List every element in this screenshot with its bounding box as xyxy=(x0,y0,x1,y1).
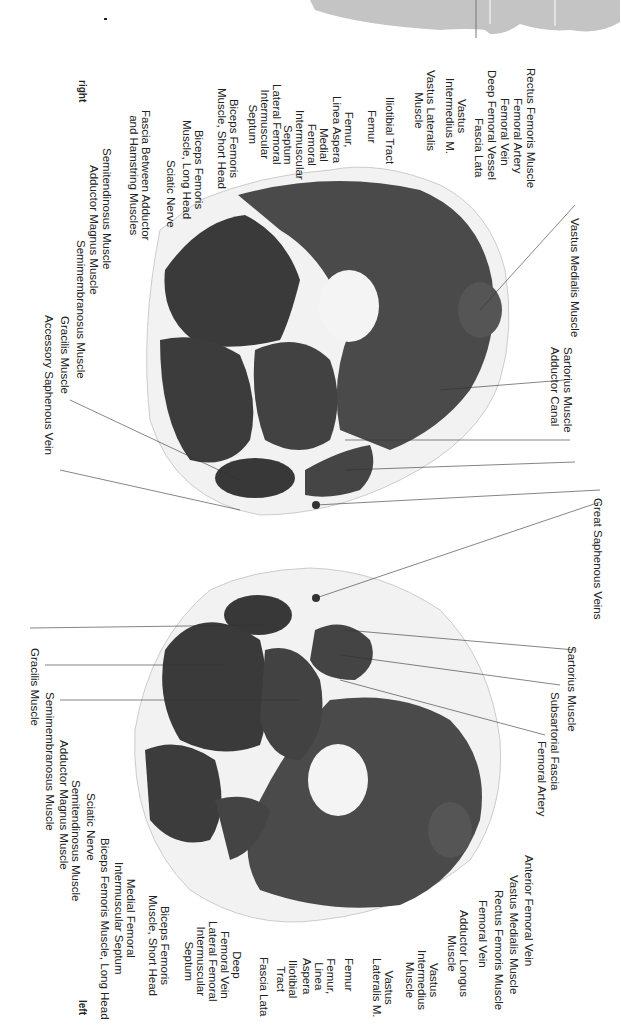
right-thigh-structure-label: Deep Femoral Vessel xyxy=(486,70,498,180)
right-thigh-structure-label: Semimembranosus Muscle xyxy=(75,240,87,379)
left-thigh-structure-label: Rectus Femoris Muscle xyxy=(493,890,505,1010)
thigh-cross-section-diagram: right left Vastus Medialis MuscleSartori… xyxy=(0,0,621,1030)
left-thigh-structure-label: Lateral Femoral Intermuscular Septum xyxy=(183,921,219,1002)
left-thigh-structure-label: Femur, Linea Aspera xyxy=(301,958,337,994)
right-thigh-structure-label: Adductor Magnus Muscle xyxy=(88,165,100,295)
left-thigh-structure-label: Medial Femoral Intermuscular Septum xyxy=(113,862,137,975)
right-thigh-structure-label: Sartorius Muscle xyxy=(562,347,574,433)
left-thigh-structure-label: Sartorius Muscle xyxy=(566,646,578,732)
left-thigh-structure-label: Biceps Femoris Muscle, Long Head xyxy=(99,838,111,1020)
left-thigh-structure-label: Adductor Magnus Muscle xyxy=(58,740,70,870)
left-thigh-structure-label: Semitendinosus Muscle xyxy=(70,780,82,901)
left-thigh-structure-label: Vastus Intermedius Muscle xyxy=(404,950,440,1010)
left-thigh-structure-label: Vastus Lateralis M. xyxy=(371,958,395,1017)
left-thigh-structure-label: Adductor Longus Muscle xyxy=(446,910,470,997)
right-thigh-structure-label: Semitendinosus Muscle xyxy=(101,148,113,269)
orientation-label-right: right xyxy=(76,80,88,102)
right-thigh-structure-label: Femur xyxy=(366,110,378,143)
right-thigh-structure-label: Femoral Vein xyxy=(499,98,511,166)
right-thigh-structure-label: Rectus Femoris Muscle xyxy=(525,68,537,188)
right-thigh-structure-label: Accessory Saphenous Vein xyxy=(43,315,55,455)
right-thigh-structure-label: Medial Femoral Intermuscular Septum xyxy=(282,110,330,180)
right-thigh-structure-label: Vastus Medialis Muscle xyxy=(569,218,581,337)
right-thigh-structure-label: Gracilis Muscle xyxy=(59,316,71,394)
great-saphenous-veins-label: Great Saphenous Veins xyxy=(592,498,604,619)
right-thigh-structure-label: Vastus Intermedius M. xyxy=(444,78,468,154)
left-thigh-structure-label: Iliotibial Tract xyxy=(275,960,299,998)
right-thigh-structure-label: Sciatic Nerve xyxy=(165,160,177,228)
left-thigh-structure-label: Biceps Femoris Muscle, Short Head xyxy=(147,895,171,996)
left-thigh-structure-label: Sciatic Nerve xyxy=(85,793,97,861)
left-thigh-structure-label: Fascia Lata xyxy=(258,957,270,1016)
left-thigh-structure-label: Femoral Vein xyxy=(477,900,489,968)
right-thigh-structure-label: Vastus Lateralis Muscle xyxy=(413,70,437,151)
right-thigh-structure-label: Fascia Lata xyxy=(473,118,485,177)
right-thigh-structure-label: Femur, Linea Aspera xyxy=(331,96,355,163)
right-thigh-section xyxy=(147,167,509,515)
right-thigh-structure-label: Biceps Femoris Muscle, Long Head xyxy=(181,120,205,219)
left-thigh-structure-label: Femoral Artery xyxy=(536,741,548,816)
left-thigh-structure-label: Gracilis Muscle xyxy=(29,648,41,726)
left-thigh-structure-label: Femur xyxy=(343,958,355,991)
left-thigh-structure-label: Subsartorial Fascia xyxy=(549,692,561,790)
left-thigh-structure-label: Deep Femoral Vein xyxy=(219,931,243,999)
right-thigh-structure-label: Biceps Femoris Muscle, Short Head xyxy=(216,88,240,189)
right-thigh-structure-label: Lateral Femoral Intermuscular Septum xyxy=(247,84,283,165)
left-thigh-structure-label: Anterior Femoral Vein xyxy=(523,855,535,966)
right-thigh-structure-label: Adductor Canal xyxy=(549,347,561,426)
right-thigh-structure-label: Iliotibial Tract xyxy=(384,97,396,164)
right-thigh-structure-label: Fascia Between Adductor and Hamstring Mu… xyxy=(128,110,152,240)
right-thigh-structure-label: Femoral Artery xyxy=(512,98,524,173)
orientation-label-left: left xyxy=(76,1000,88,1015)
left-thigh-structure-label: Semimembranosus Muscle xyxy=(44,692,56,831)
left-thigh-section xyxy=(135,568,501,922)
left-thigh-structure-label: Vastus Medialis Muscle xyxy=(508,875,520,994)
body-orientation-thumbnail xyxy=(310,0,620,38)
